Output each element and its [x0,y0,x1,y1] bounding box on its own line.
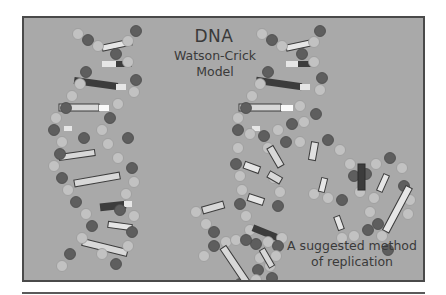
caption-line2: of replication [282,254,422,269]
horizontal-divider [22,292,425,294]
diagram-subtitle-line2: Model [150,64,280,79]
diagram-subtitle-line1: Watson-Crick [150,48,280,63]
dna-diagram-panel: DNA Watson-Crick Model A suggested metho… [22,16,425,282]
left-helix-backbone [49,26,142,272]
caption-line1: A suggested method [282,238,422,253]
diagram-title: DNA [174,26,254,46]
